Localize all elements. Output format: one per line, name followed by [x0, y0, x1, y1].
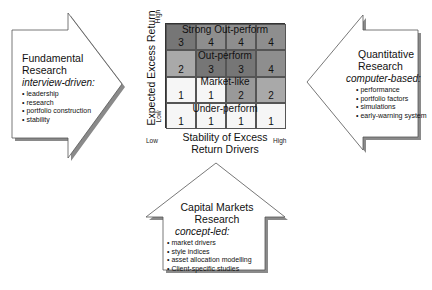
x-axis-low: Low [146, 137, 158, 144]
row-label-outperform: Out-perform [165, 50, 285, 61]
row-label-underperform: Under-perform [165, 103, 285, 114]
list-item: portfolio factors [356, 95, 427, 104]
capital-subtitle: concept-led: [167, 226, 267, 238]
list-item: performance [356, 86, 427, 95]
y-axis-high: High [154, 10, 161, 23]
list-item: asset allocation modelling [167, 256, 267, 265]
quantitative-title-line2: Research [358, 60, 427, 72]
list-item: style indices [167, 248, 267, 257]
list-item: leadership [22, 90, 95, 99]
fundamental-list: leadership research portfolio constructi… [22, 90, 95, 124]
capital-list: market drivers style indices asset alloc… [167, 239, 267, 273]
list-item: Client-specific studies [167, 265, 267, 274]
quantitative-subtitle: computer-based: [346, 73, 427, 85]
list-item: simulations [356, 103, 427, 112]
y-axis-low: Low [155, 111, 162, 123]
capital-title-line2: Research [167, 213, 267, 225]
fundamental-subtitle: interview-driven: [22, 77, 95, 89]
quantitative-research-panel: Quantitative Research computer-based: pe… [346, 48, 427, 120]
row-label-strong-outperform: Strong Out-perform [165, 24, 285, 35]
list-item: market drivers [167, 239, 267, 248]
list-item: early-warning system [356, 112, 427, 121]
x-axis-label-line1: Stability of Excess [165, 131, 285, 143]
capital-markets-research-panel: Capital Markets Research concept-led: ma… [167, 201, 267, 273]
row-label-market-like: Market-like [165, 76, 285, 87]
quantitative-title-line1: Quantitative [358, 48, 427, 60]
x-axis-label: Stability of Excess Return Drivers [165, 131, 285, 155]
fundamental-research-panel: Fundamental Research interview-driven: l… [22, 52, 95, 124]
list-item: research [22, 99, 95, 108]
list-item: stability [22, 116, 95, 125]
capital-title-line1: Capital Markets [167, 201, 267, 213]
x-axis-label-line2: Return Drivers [165, 143, 285, 155]
fundamental-title-line2: Research [22, 64, 95, 76]
fundamental-title-line1: Fundamental [22, 52, 95, 64]
quantitative-list: performance portfolio factors simulation… [346, 86, 427, 120]
list-item: portfolio construction [22, 107, 95, 116]
